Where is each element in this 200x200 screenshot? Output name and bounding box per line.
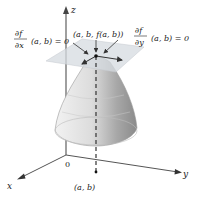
partial-y-label: ∂f ∂y (a, b) = 0	[134, 26, 189, 47]
svg-text:∂x: ∂x	[15, 41, 24, 50]
x-axis	[17, 155, 66, 180]
partial-x-label: ∂f ∂x (a, b) = 0	[14, 29, 69, 50]
base-point-label: (a, b)	[74, 183, 95, 192]
y-axis-label: y	[182, 169, 189, 179]
point-label: (a, b, f(a, b))	[73, 30, 123, 39]
x-axis-label: x	[7, 181, 12, 191]
max-point-diagram: z x y 0 (a, b) (a, b, f(a, b)) ∂f ∂x (a,…	[0, 0, 200, 200]
svg-text:∂f: ∂f	[135, 26, 144, 35]
svg-text:(a, b) = 0: (a, b) = 0	[31, 37, 69, 46]
z-axis-label: z	[70, 5, 76, 15]
svg-text:∂y: ∂y	[135, 38, 144, 47]
svg-text:(a, b) = 0: (a, b) = 0	[151, 34, 189, 43]
y-axis	[66, 155, 182, 175]
svg-text:∂f: ∂f	[15, 29, 24, 38]
origin-label: 0	[65, 160, 70, 169]
